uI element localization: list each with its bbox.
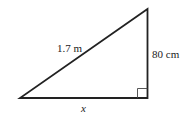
triangle-diagram: 1.7 m 80 cm x [0,0,186,118]
hypotenuse-label: 1.7 m [57,42,83,54]
base-label: x [80,102,86,114]
right-angle-marker [138,89,148,99]
vertical-side-label: 80 cm [152,48,180,60]
right-triangle [20,9,148,98]
